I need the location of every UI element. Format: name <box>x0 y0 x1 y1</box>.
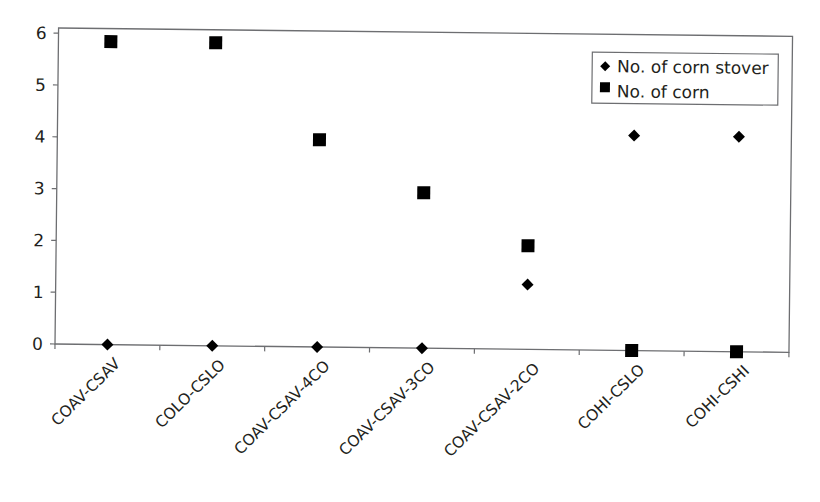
legend: No. of corn stover No. of corn <box>592 52 779 105</box>
x-tick-label: COHI-CSHI <box>682 362 753 432</box>
x-axis: COAV-CSAVCOLO-CSLOCOAV-CSAV-4COCOAV-CSAV… <box>47 344 789 465</box>
corn-square-marker <box>209 36 222 49</box>
x-tick-label: COAV-CSAV-2CO <box>440 359 543 460</box>
x-tick-label: COLO-CSLO <box>152 356 229 432</box>
y-tick-label: 2 <box>33 230 44 250</box>
corn-square-marker <box>521 239 534 252</box>
x-tick-label: COAV-CSAV-3CO <box>336 358 439 459</box>
corn-square-marker <box>625 344 638 357</box>
x-tick-label: COAV-CSAV-4CO <box>231 357 334 458</box>
corn-square-marker <box>104 35 117 48</box>
y-tick-label: 0 <box>32 334 43 354</box>
corn-square-marker <box>313 133 326 146</box>
legend-square-icon <box>600 82 610 92</box>
x-tick-label: COHI-CSLO <box>574 361 648 434</box>
corn-square-marker <box>417 186 430 199</box>
legend-label-stover: No. of corn stover <box>617 56 769 78</box>
y-tick-label: 4 <box>34 127 45 147</box>
y-tick-label: 5 <box>35 75 46 95</box>
legend-label-corn: No. of corn <box>617 81 710 102</box>
y-axis: 0123456 <box>32 23 59 354</box>
scatter-chart: 0123456 COAV-CSAVCOLO-CSLOCOAV-CSAV-4COC… <box>0 0 820 502</box>
y-tick-label: 1 <box>33 282 44 302</box>
y-tick-label: 6 <box>36 23 47 43</box>
y-tick-label: 3 <box>34 178 45 198</box>
x-tick-label: COAV-CSAV <box>48 354 124 429</box>
corn-square-marker <box>730 345 743 358</box>
